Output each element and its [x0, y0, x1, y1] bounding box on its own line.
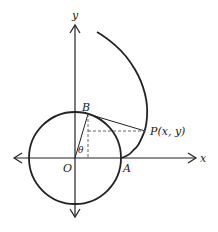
point-a-label: A	[122, 162, 131, 175]
diagram-svg: y x O A B P(x, y) θ	[0, 0, 218, 232]
tangent-bp	[88, 114, 145, 131]
y-axis	[70, 25, 80, 217]
involute-curve	[97, 32, 147, 158]
x-axis-label: x	[200, 152, 207, 165]
origin-label: O	[63, 162, 72, 175]
involute-diagram: y x O A B P(x, y) θ	[0, 0, 218, 232]
x-axis	[14, 153, 196, 163]
point-p-label: P(x, y)	[149, 125, 185, 138]
point-b-label: B	[81, 101, 90, 114]
y-axis-label: y	[71, 9, 79, 22]
theta-label: θ	[78, 145, 84, 155]
